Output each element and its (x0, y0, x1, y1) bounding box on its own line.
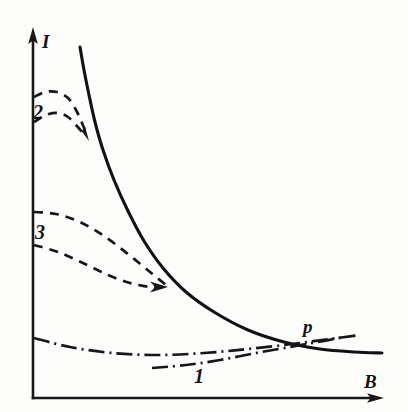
curve-1-upper-dashdot (34, 335, 360, 355)
x-axis-label: B (363, 371, 377, 392)
figure-container: I B 2 3 1 p (0, 0, 408, 412)
curve-3-lower-dashed (34, 245, 163, 287)
point-p-label: p (301, 316, 313, 337)
curve-3-upper-dashed (34, 212, 166, 285)
curve-3-label: 3 (34, 221, 45, 243)
curve-1-label: 1 (194, 365, 204, 387)
y-axis-label: I (41, 31, 50, 52)
x-axis-group: B (33, 371, 384, 403)
curve-2-label: 2 (32, 101, 43, 123)
physics-plot: I B 2 3 1 p (0, 0, 408, 412)
main-solid-curve (80, 47, 382, 353)
